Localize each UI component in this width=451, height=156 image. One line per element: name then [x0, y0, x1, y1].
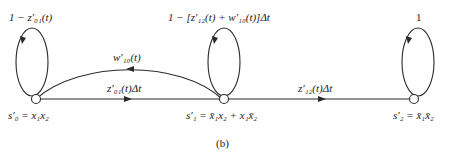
loop-label-s2: 1 [416, 12, 422, 23]
transition-label-s0-s1: z′₀₁(t)Δt [107, 83, 141, 94]
state-label-s0: s′₀ = x₁x₂ [8, 110, 49, 121]
arrow-loop-s2-icon [406, 36, 412, 44]
transition-label-s1-s2: z′₁₂(t)Δt [298, 83, 332, 94]
diagram-canvas [0, 0, 451, 156]
state-node-s1 [220, 95, 229, 104]
arrow-loop-s0-icon [20, 36, 26, 44]
loop-label-s0: 1 − z′₀₁(t) [9, 12, 52, 23]
arrow-loop-s1-icon [212, 36, 218, 44]
transition-label-s1-s0: w′₁₀(t) [113, 52, 141, 63]
figure-caption: (b) [216, 137, 229, 149]
state-label-s2: s′₂ = x̄₁x̄₂ [393, 110, 434, 121]
state-node-s2 [410, 95, 419, 104]
loop-label-s1: 1 − [z′₁₂(t) + w′₁₀(t)]Δt [168, 12, 270, 23]
arrow-s1-s2-icon [318, 96, 326, 102]
arrow-s1-s0-icon [126, 66, 134, 72]
state-label-s1: s′₁ = x̄₁x₂ + x₁x̄₂ [186, 110, 257, 121]
arrow-s0-s1-icon [124, 96, 132, 102]
state-node-s0 [32, 95, 41, 104]
